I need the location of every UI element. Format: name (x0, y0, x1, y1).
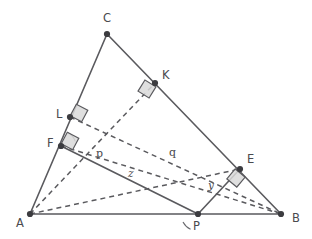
geometry-figure: ABCPKLFE pqzy (0, 0, 312, 239)
length-labels-layer: pqzy (96, 146, 215, 191)
vertex-dot-A (27, 211, 33, 217)
length-label-p: p (96, 147, 103, 160)
geometry-canvas: ABCPKLFE pqzy (0, 0, 312, 239)
angle-arc-at-P (183, 222, 191, 229)
right-angle-at-E (227, 169, 245, 187)
vertex-dot-K (152, 80, 158, 86)
point-label-F: F (47, 136, 54, 150)
right-angle-at-L (70, 104, 88, 122)
length-label-z: z (127, 167, 134, 179)
point-label-C: C (103, 11, 111, 25)
segment-AC (30, 34, 107, 214)
segment-FP (61, 146, 198, 214)
vertex-dot-L (67, 114, 73, 120)
length-label-y: y (207, 179, 215, 191)
vertex-dots-layer (27, 31, 284, 217)
vertex-dot-P (195, 211, 201, 217)
point-label-K: K (162, 68, 170, 82)
right-angle-marks-layer (61, 80, 245, 187)
vertex-dot-C (104, 31, 110, 37)
point-label-L: L (56, 107, 63, 121)
length-label-q: q (169, 146, 176, 159)
point-label-B: B (292, 211, 300, 225)
vertex-dot-B (278, 211, 284, 217)
vertex-dot-F (58, 143, 64, 149)
vertex-dot-E (237, 166, 243, 172)
point-label-P: P (193, 219, 200, 233)
point-label-E: E (247, 152, 254, 166)
point-labels-layer: ABCPKLFE (16, 11, 300, 233)
point-label-A: A (16, 216, 24, 230)
